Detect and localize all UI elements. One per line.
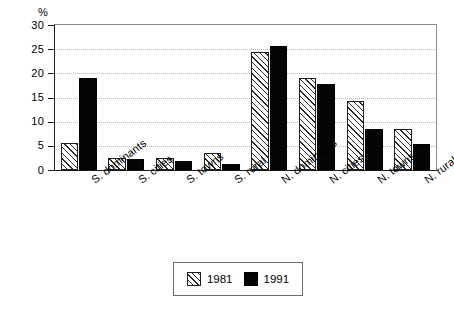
y-axis-tick-label: 25 xyxy=(10,44,44,55)
bar-1991-s-rural xyxy=(222,164,240,170)
bar-1991-n-towns xyxy=(365,129,383,170)
x-axis-label: N. towns xyxy=(375,176,382,186)
y-axis-tick-label: 10 xyxy=(10,116,44,127)
chart-figure: % 051015202530 S. dominantsS. citiesS. t… xyxy=(0,0,454,311)
x-axis-label: S. towns xyxy=(184,176,191,186)
bar-1981-n-dominants xyxy=(251,52,269,170)
x-axis-label: N. rural xyxy=(422,176,429,186)
plot-area xyxy=(54,24,437,171)
gridline xyxy=(55,122,436,123)
x-axis-label: S. rural xyxy=(232,176,239,186)
bar-1991-n-dominants xyxy=(270,46,288,170)
x-axis-label: N. cities xyxy=(327,176,334,186)
y-axis-tick-label: 20 xyxy=(10,68,44,79)
y-axis-tick-label: 30 xyxy=(10,20,44,31)
y-axis-unit-label: % xyxy=(38,6,48,18)
bar-1991-s-dominants xyxy=(79,78,97,170)
x-axis-label: N. dominants xyxy=(279,176,286,186)
x-axis-label: S. dominants xyxy=(89,176,96,186)
y-axis-tick-label: 15 xyxy=(10,92,44,103)
x-axis-label: S. cities xyxy=(136,176,143,186)
legend-label-1981: 1981 xyxy=(207,273,233,285)
legend-entry-1991: 1991 xyxy=(244,272,290,286)
chart-legend: 1981 1991 xyxy=(173,262,303,296)
solid-black-swatch xyxy=(244,272,258,286)
gridline xyxy=(55,73,436,74)
bar-1991-s-towns xyxy=(175,161,193,170)
y-axis-tick-label: 0 xyxy=(10,165,44,176)
hatched-diagonal-swatch xyxy=(187,272,201,286)
bar-1981-s-dominants xyxy=(61,143,79,170)
gridline xyxy=(55,98,436,99)
gridline xyxy=(55,49,436,50)
y-axis-tick-label: 5 xyxy=(10,140,44,151)
legend-label-1991: 1991 xyxy=(264,273,290,285)
bar-1991-s-cities xyxy=(127,159,145,170)
legend-entry-1981: 1981 xyxy=(187,272,233,286)
